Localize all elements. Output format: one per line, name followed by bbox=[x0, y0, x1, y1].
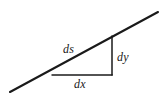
differential-triangle-figure: ds dy dx bbox=[0, 0, 167, 103]
dy-label: dy bbox=[117, 51, 129, 63]
dx-label: dx bbox=[74, 78, 86, 90]
ds-label: ds bbox=[63, 43, 74, 55]
